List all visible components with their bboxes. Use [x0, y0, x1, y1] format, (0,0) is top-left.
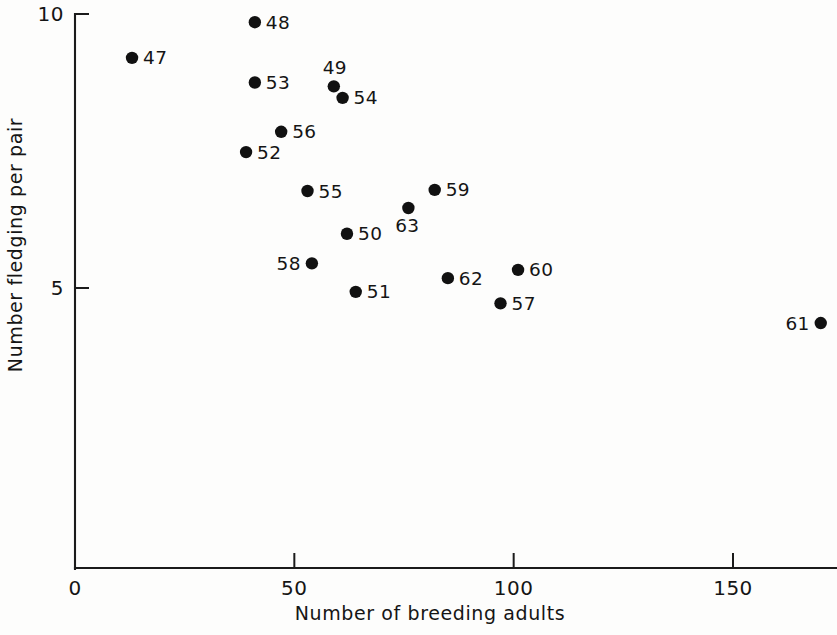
data-point-label: 61	[785, 313, 809, 334]
data-point-group: 56	[275, 121, 317, 142]
data-point-label: 51	[367, 281, 391, 302]
data-point-marker	[815, 317, 827, 329]
data-point-marker	[301, 185, 313, 197]
data-point-group: 55	[301, 181, 343, 202]
data-point-label: 49	[323, 57, 347, 78]
x-tick-label: 150	[713, 576, 753, 600]
data-point-marker	[494, 297, 506, 309]
data-point-label: 60	[529, 259, 553, 280]
data-point-label: 59	[446, 179, 470, 200]
data-point-label: 62	[459, 268, 483, 289]
data-point-label: 54	[354, 87, 378, 108]
data-point-group: 62	[442, 268, 484, 289]
data-point-marker	[336, 92, 348, 104]
data-point-marker	[350, 286, 362, 298]
data-point-group: 48	[249, 12, 291, 33]
data-point-group: 63	[395, 202, 419, 236]
data-point-label: 48	[266, 12, 290, 33]
y-axis-ticks: 510	[38, 2, 89, 300]
data-point-marker	[306, 257, 318, 269]
data-point-group: 47	[126, 47, 168, 68]
data-point-group: 49	[323, 57, 347, 92]
scatter-plot: 510 050100150 47484950515253545556575859…	[0, 0, 837, 635]
x-axis-title: Number of breeding adults	[295, 602, 565, 624]
data-point-group: 57	[494, 293, 536, 314]
data-point-marker	[275, 126, 287, 138]
data-point-marker	[249, 76, 261, 88]
y-axis-title: Number fledging per pair	[4, 118, 26, 372]
data-point-marker	[429, 184, 441, 196]
data-point-group: 51	[350, 281, 392, 302]
data-point-group: 59	[429, 179, 471, 200]
data-points-layer: 4748495051525354555657585960616263	[126, 12, 827, 334]
data-point-marker	[240, 146, 252, 158]
x-axis-ticks: 050100150	[68, 553, 752, 600]
figure-container: 510 050100150 47484950515253545556575859…	[0, 0, 837, 635]
data-point-label: 53	[266, 72, 290, 93]
data-point-group: 58	[277, 253, 319, 274]
data-point-group: 60	[512, 259, 554, 280]
y-tick-label: 10	[38, 2, 64, 26]
data-point-group: 54	[336, 87, 378, 108]
data-point-label: 57	[512, 293, 536, 314]
data-point-group: 50	[341, 223, 383, 244]
data-point-marker	[126, 52, 138, 64]
data-point-label: 63	[395, 215, 419, 236]
axes-group	[75, 14, 836, 569]
data-point-marker	[512, 264, 524, 276]
x-tick-label: 0	[68, 576, 81, 600]
data-point-label: 47	[143, 47, 167, 68]
data-point-label: 52	[257, 142, 281, 163]
data-point-marker	[442, 272, 454, 284]
data-point-group: 52	[240, 142, 282, 163]
data-point-label: 50	[358, 223, 382, 244]
data-point-label: 58	[277, 253, 301, 274]
data-point-group: 53	[249, 72, 291, 93]
x-tick-label: 50	[281, 576, 307, 600]
x-tick-label: 100	[494, 576, 534, 600]
data-point-marker	[402, 202, 414, 214]
data-point-label: 56	[292, 121, 316, 142]
data-point-marker	[249, 16, 261, 28]
data-point-label: 55	[318, 181, 342, 202]
y-tick-label: 5	[51, 276, 64, 300]
data-point-marker	[341, 228, 353, 240]
data-point-marker	[328, 80, 340, 92]
data-point-group: 61	[785, 313, 827, 334]
